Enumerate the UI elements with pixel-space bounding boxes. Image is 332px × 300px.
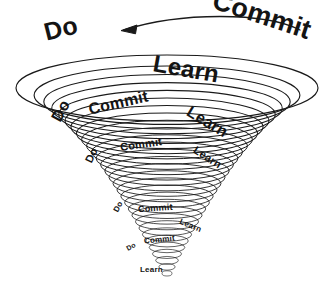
funnel-ring <box>162 271 172 276</box>
counterclockwise-arrow <box>121 17 300 34</box>
funnel-rings <box>16 55 318 276</box>
funnel-ring <box>156 256 179 264</box>
funnel-vector-graphic <box>0 0 332 300</box>
funnel-ring <box>117 178 217 202</box>
funnel-ring <box>149 242 185 253</box>
funnel-ring <box>152 249 181 258</box>
spiral-funnel-diagram: DoCommitLearnDoCommitLearnDoCommitLearnD… <box>0 0 332 300</box>
arrow-shaft <box>124 17 300 31</box>
funnel-ring <box>132 206 202 224</box>
arrow-head <box>121 25 137 34</box>
funnel-ring <box>136 214 199 230</box>
